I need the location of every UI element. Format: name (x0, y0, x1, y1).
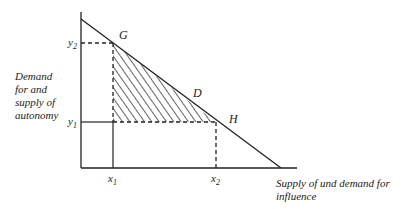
y-label-line: autonomy (15, 109, 58, 122)
tick-x1: x1 (108, 172, 117, 189)
tick-x2: x2 (211, 172, 220, 189)
tick-y1: y1 (68, 115, 77, 132)
point-g-label: G (119, 29, 128, 42)
point-d-label: D (193, 87, 202, 100)
y-axis-label: Demand for and supply of autonomy (15, 70, 58, 122)
y-label-line: supply of (15, 96, 58, 109)
point-h-label: H (229, 113, 238, 126)
x-label-line: influence (276, 190, 390, 203)
autonomy-influence-diagram: Demand for and supply of autonomy y2 y1 … (0, 0, 407, 209)
x-label-line: Supply of und demand for (276, 177, 390, 190)
x-axis-label: Supply of und demand for influence (276, 177, 390, 203)
demand-supply-line (81, 19, 281, 168)
y-label-line: for and (15, 83, 58, 96)
tick-y2: y2 (68, 36, 77, 53)
y-label-line: Demand (15, 70, 58, 83)
